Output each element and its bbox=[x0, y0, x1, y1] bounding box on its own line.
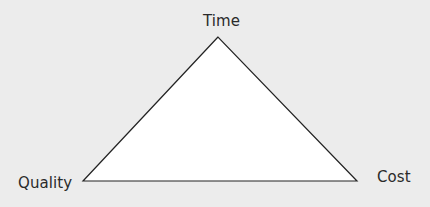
project-triangle-diagram: Time Quality Cost bbox=[0, 0, 430, 207]
vertex-label-cost: Cost bbox=[377, 168, 411, 186]
vertex-label-time: Time bbox=[203, 12, 240, 30]
vertex-label-quality: Quality bbox=[18, 174, 72, 192]
